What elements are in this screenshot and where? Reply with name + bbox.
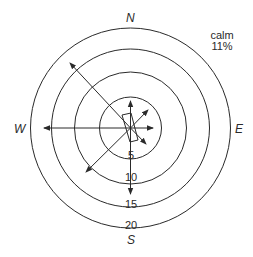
ring-label-20: 20: [125, 220, 137, 231]
label-south: S: [127, 234, 135, 246]
calm-value: 11%: [206, 41, 238, 52]
label-north: N: [126, 12, 135, 24]
ring-label-15: 15: [125, 199, 137, 210]
arrow-ne: [131, 110, 149, 128]
label-west: W: [14, 123, 25, 135]
calm-annotation: calm 11%: [206, 30, 238, 52]
ring-label-5: 5: [128, 150, 134, 161]
wind-rose-diagram: N E S W 5 10 15 20 calm 11%: [0, 0, 253, 257]
label-east: E: [235, 123, 243, 135]
arrow-sw: [86, 128, 131, 172]
ring-label-10: 10: [125, 172, 137, 183]
